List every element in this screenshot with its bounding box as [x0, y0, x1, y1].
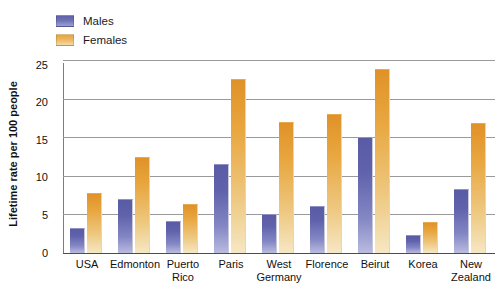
bar-males — [406, 235, 421, 253]
x-axis-line — [63, 253, 495, 254]
bar-females — [135, 157, 150, 253]
legend-label-females: Females — [83, 34, 127, 46]
legend-swatch-females-icon — [56, 34, 74, 46]
y-tick-10: 10 — [18, 172, 48, 183]
bar-males — [166, 221, 181, 253]
bar-males — [214, 164, 229, 253]
y-tick-0: 0 — [18, 248, 48, 259]
bar-females — [87, 193, 102, 253]
bar-females — [423, 222, 438, 253]
bar-males — [454, 189, 469, 253]
y-tick-20: 20 — [18, 97, 48, 108]
legend-label-males: Males — [83, 15, 114, 27]
bar-females — [279, 122, 294, 253]
bar-males — [310, 206, 325, 253]
legend-item-males: Males — [56, 12, 127, 29]
bar-males — [358, 137, 373, 253]
bar-males — [118, 199, 133, 253]
y-axis-tick-labels: 25 20 15 10 5 0 — [18, 0, 48, 299]
x-axis-tick-labels: USAEdmontonPuertoRicoParisWestGermanyFlo… — [63, 258, 495, 298]
bar-females — [471, 123, 486, 253]
bar-chart: Males Females Lifetime rate per 100 peop… — [0, 0, 503, 299]
y-tick-15: 15 — [18, 135, 48, 146]
legend-item-females: Females — [56, 31, 127, 48]
bar-females — [231, 79, 246, 253]
gridline-20 — [63, 99, 495, 100]
chart-legend: Males Females — [56, 12, 127, 50]
x-tick-label: NewZealand — [439, 258, 503, 284]
legend-swatch-males-icon — [56, 15, 74, 27]
bar-females — [375, 69, 390, 253]
bar-males — [262, 214, 277, 253]
y-tick-5: 5 — [18, 210, 48, 221]
bar-females — [327, 114, 342, 253]
y-tick-25: 25 — [18, 60, 48, 71]
gridline-25 — [63, 60, 495, 61]
plot-area — [63, 60, 495, 253]
bar-females — [183, 204, 198, 253]
bar-males — [70, 228, 85, 253]
